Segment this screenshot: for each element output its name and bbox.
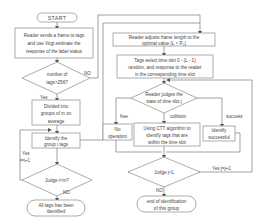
start-node: START bbox=[37, 13, 77, 22]
adjust-frame-line-2: optimal value (L < P₀) bbox=[142, 41, 186, 46]
end-all-line-2: identified bbox=[47, 209, 66, 214]
ctt-algorithm-box: Using CTT algorithm to identify tags tha… bbox=[134, 123, 200, 146]
decision-judge-i: Judge i<m? bbox=[22, 164, 92, 196]
identify-successful-box: Identify successful bbox=[203, 126, 235, 141]
divide-line-3: average bbox=[48, 119, 65, 124]
flowchart-canvas: START Reader sends a frame to tags and u… bbox=[0, 0, 266, 224]
decision-tags-count: number of tags>256? bbox=[22, 62, 90, 94]
decision-j-label: Judge j<L bbox=[154, 170, 174, 175]
no-operation-box: No operation bbox=[103, 124, 132, 140]
decision-tags-line-1: number of bbox=[47, 72, 68, 77]
branch-success-label: success bbox=[226, 114, 243, 119]
send-frame-line-2: and use Vogt estimate the bbox=[27, 41, 81, 46]
no-operation-line-1: No bbox=[115, 127, 121, 132]
branch-collision-label: collision bbox=[170, 114, 187, 119]
flowchart-svg: START Reader sends a frame to tags and u… bbox=[0, 0, 266, 224]
ctt-line-1: Using CTT algorithm to bbox=[143, 126, 191, 131]
ctt-line-2: identify tags that are bbox=[146, 133, 188, 138]
divide-line-2: groups of m on bbox=[41, 111, 72, 116]
decision-state-line-1: Reader judges the bbox=[145, 92, 183, 97]
decision-tags-no-label: NO bbox=[84, 71, 91, 76]
decision-judge-j: Judge j<L bbox=[128, 157, 200, 187]
branch-free-label: free bbox=[120, 114, 128, 119]
divide-line-1: Divided into bbox=[44, 104, 68, 109]
adjust-frame-line-1: Reader adjusts frame length to the bbox=[129, 35, 200, 40]
identify-success-line-1: Identify bbox=[212, 128, 228, 133]
start-label: START bbox=[48, 15, 67, 21]
send-frame-line-3: response of the label status bbox=[26, 49, 83, 54]
ctt-line-3: within the time slot bbox=[148, 140, 187, 145]
no-operation-line-2: operation bbox=[108, 134, 128, 139]
identify-group-line-2: group i tags bbox=[44, 142, 69, 147]
identify-success-line-2: successful bbox=[208, 135, 229, 140]
select-slot-line-2: random, and response to the reader bbox=[128, 65, 202, 70]
end-all-tags-node: All tags has been identified bbox=[27, 200, 85, 216]
decision-state-line-2: state of time slot j bbox=[146, 99, 182, 104]
end-all-line-1: All tags has been bbox=[38, 203, 74, 208]
decision-slot-state: Reader judges the state of time slot j bbox=[131, 83, 197, 113]
decision-j-no-label: NO bbox=[156, 188, 163, 193]
end-group-line-2: of this group bbox=[154, 206, 180, 211]
select-slot-line-3: in the corresponding time slot bbox=[135, 72, 196, 77]
end-group-line-1: end of identification bbox=[147, 199, 187, 204]
send-frame-box: Reader sends a frame to tags and use Vog… bbox=[15, 28, 93, 58]
identify-group-line-1: Identify the bbox=[45, 136, 68, 141]
adjust-frame-box: Reader adjusts frame length to the optim… bbox=[113, 33, 215, 46]
decision-tags-line-2: tags>256? bbox=[46, 80, 68, 85]
select-slot-line-1: Tags select time slot 0 - (L - 1) bbox=[134, 58, 196, 63]
divide-groups-box: Divided into groups of m on average bbox=[32, 100, 80, 125]
send-frame-line-1: Reader sends a frame to tags bbox=[24, 33, 85, 38]
decision-j-yes-label: Yes j=j+1 bbox=[212, 166, 231, 171]
end-group-node: end of identification of this group bbox=[137, 196, 196, 212]
decision-i-no-label: NO bbox=[63, 190, 70, 195]
identify-group-box: Identify the group i tags bbox=[32, 133, 80, 148]
loop-i-increment-label: i=i+1 bbox=[20, 158, 30, 163]
decision-tags-yes-label: Yes bbox=[40, 95, 48, 100]
decision-i-label: Judge i<m? bbox=[45, 178, 69, 183]
select-slot-box: Tags select time slot 0 - (L - 1) random… bbox=[117, 55, 213, 78]
loop-i-yes-label: Yes bbox=[22, 151, 30, 156]
